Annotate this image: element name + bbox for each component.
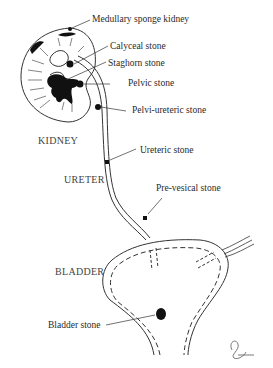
label-staghorn-stone: Staghorn stone [108, 59, 165, 69]
medullary-sponge-marks [30, 33, 76, 54]
bladder-stone [156, 308, 166, 320]
pelvic-stone [77, 81, 84, 88]
label-medullary-sponge-kidney: Medullary sponge kidney [92, 15, 189, 25]
bladder [103, 240, 229, 355]
label-prevesical-stone: Pre-vesical stone [156, 184, 221, 194]
ureteric-stone [105, 160, 109, 164]
signature [231, 341, 254, 358]
staghorn-stone [47, 74, 78, 104]
calyceal-stone [67, 61, 74, 68]
label-calyceal-stone: Calyceal stone [110, 42, 166, 52]
prevesical-stone [143, 216, 147, 220]
urinary-tract-diagram [0, 0, 273, 368]
pelviureteric-stone [95, 104, 101, 110]
caption-ureter: URETER [64, 175, 105, 185]
label-bladder-stone: Bladder stone [48, 321, 101, 331]
caption-kidney: KIDNEY [38, 136, 78, 146]
label-pelviureteric-stone: Pelvi-ureteric stone [132, 106, 206, 116]
label-ureteric-stone: Ureteric stone [140, 146, 194, 156]
label-pelvic-stone: Pelvic stone [128, 79, 174, 89]
caption-bladder: BLADDER [55, 267, 104, 277]
